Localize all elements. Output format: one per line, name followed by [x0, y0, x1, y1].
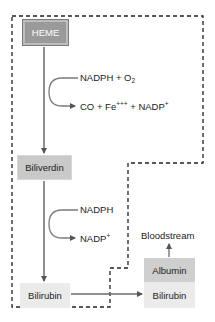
bloodstream-label: Bloodstream — [141, 230, 194, 241]
node-bilirubin-bound-label: Bilirubin — [153, 290, 187, 301]
node-heme: HEME — [23, 20, 68, 45]
node-albumin-label: Albumin — [152, 265, 186, 276]
reaction1-output: CO + Fe+++ + NADP+ — [80, 100, 169, 112]
node-biliverdin-label: Biliverdin — [25, 162, 64, 173]
node-bilirubin-cell-label: Bilirubin — [28, 290, 62, 301]
reaction2-input: NADPH — [80, 204, 113, 215]
node-biliverdin: Biliverdin — [17, 155, 72, 180]
reaction-curve-2 — [49, 210, 78, 238]
node-heme-label: HEME — [32, 27, 59, 38]
node-bilirubin-bound: Bilirubin — [144, 282, 195, 308]
reaction2-output: NADP+ — [80, 232, 110, 244]
node-albumin: Albumin — [144, 258, 195, 282]
reaction1-input: NADPH + O2 — [80, 72, 135, 84]
reaction-curve-1 — [49, 78, 78, 106]
node-bilirubin-cell: Bilirubin — [20, 283, 70, 308]
